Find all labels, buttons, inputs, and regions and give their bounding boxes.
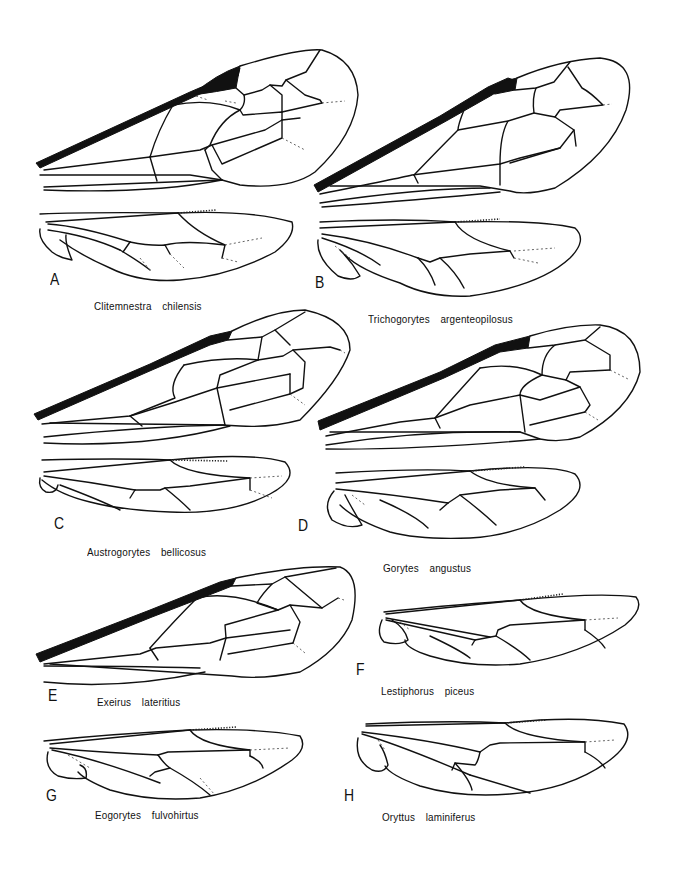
panel-letter-f: F bbox=[356, 660, 365, 680]
species-caption-g: Eogorytes fulvohirtus bbox=[95, 809, 199, 821]
panel-letter-h: H bbox=[344, 786, 354, 806]
panel-letter-b: B bbox=[315, 273, 324, 293]
panel-letter-c: C bbox=[54, 514, 64, 534]
panel-a-forewing bbox=[36, 50, 358, 191]
panel-d-forewing bbox=[318, 325, 640, 449]
panel-e-forewing bbox=[36, 567, 355, 685]
species-caption-d: Gorytes angustus bbox=[383, 562, 471, 574]
species-caption-c: Austrogorytes bellicosus bbox=[87, 546, 206, 558]
panel-f-hindwing bbox=[379, 594, 638, 665]
wing-venation-plate: A B C D E F G H Clitemnestra chilensis T… bbox=[0, 0, 680, 873]
panel-letter-e: E bbox=[48, 686, 57, 706]
panel-h-hindwing bbox=[357, 719, 628, 795]
species-caption-e: Exeirus lateritius bbox=[97, 696, 180, 708]
species-caption-f: Lestiphorus piceus bbox=[381, 685, 474, 697]
panel-c-hindwing bbox=[40, 456, 290, 512]
panel-b-forewing bbox=[314, 58, 630, 207]
species-caption-h: Oryttus laminiferus bbox=[382, 811, 475, 823]
panel-letter-d: D bbox=[298, 516, 308, 536]
wing-illustrations bbox=[0, 0, 680, 873]
panel-a-hindwing bbox=[40, 210, 293, 281]
panel-letter-g: G bbox=[46, 786, 57, 806]
panel-c-forewing bbox=[34, 310, 350, 444]
panel-b-hindwing bbox=[318, 219, 581, 296]
panel-d-hindwing bbox=[327, 467, 580, 538]
species-caption-a: Clitemnestra chilensis bbox=[94, 300, 202, 312]
panel-g-hindwing bbox=[44, 727, 303, 799]
species-caption-b: Trichogorytes argenteopilosus bbox=[368, 313, 513, 325]
panel-letter-a: A bbox=[50, 270, 59, 290]
